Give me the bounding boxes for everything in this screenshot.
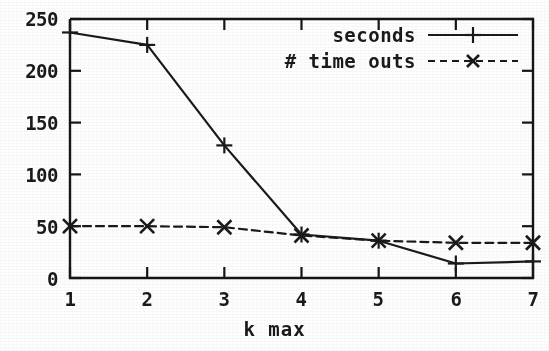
series-line-seconds xyxy=(62,24,541,271)
chart-figure: 250 200 150 100 50 0 1 2 3 4 5 6 7 k max… xyxy=(0,0,549,351)
plot-area xyxy=(0,0,549,351)
